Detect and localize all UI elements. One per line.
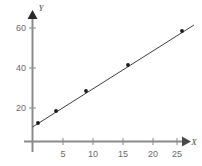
data-point [126,63,130,67]
y-tick-label-60: 60 [16,23,26,33]
axes-group [24,10,191,152]
x-tick-label-25: 25 [172,149,182,159]
data-point [36,121,40,125]
data-point [180,29,184,33]
y-axis-label: Y [38,3,44,13]
y-tick-label-20: 20 [16,103,26,113]
x-tick-label-10: 10 [88,149,98,159]
y-axis-arrowhead [28,10,38,19]
scatter-plot: 5 10 15 20 25 20 40 60 X Y [0,0,202,166]
x-axis-arrowhead [182,137,191,147]
x-tick-label-5: 5 [60,149,65,159]
data-point [84,89,88,93]
x-axis-label: X [190,137,197,147]
data-point [54,109,58,113]
x-tick-label-20: 20 [148,149,158,159]
chart-container: 5 10 15 20 25 20 40 60 X Y [0,0,202,166]
x-tick-label-15: 15 [118,149,128,159]
y-tick-label-40: 40 [16,63,26,73]
